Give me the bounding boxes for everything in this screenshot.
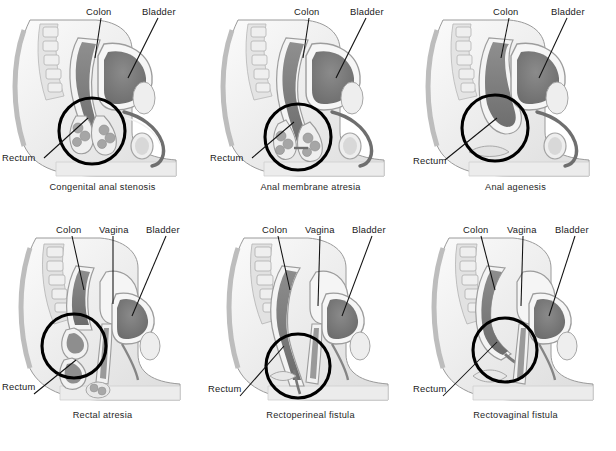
panel-anal-agenesis: Colon Bladder Rectum Anal agenesis (413, 0, 616, 225)
panel-rectal-atresia: Colon Vagina Bladder Rectum Rectal atres… (0, 218, 205, 443)
label-bladder: Bladder (146, 224, 180, 235)
panel-anal-membrane-atresia: Colon Bladder Rectum Anal membrane atres… (208, 0, 413, 225)
panel-rectoperineal-fistula: Colon Vagina Bladder Rectum Rectoperinea… (208, 218, 413, 443)
scrotum-testis (131, 133, 153, 159)
label-rectum: Rectum (2, 152, 36, 163)
label-bladder: Bladder (350, 6, 384, 17)
panel-caption: Congenital anal stenosis (0, 182, 205, 192)
panel-caption: Anal membrane atresia (208, 182, 413, 192)
pubic-symphysis (557, 332, 577, 360)
label-rectum: Rectum (413, 155, 447, 166)
panel-caption: Rectal atresia (0, 410, 205, 420)
illustration-male-pelvis (208, 0, 413, 192)
label-colon: Colon (56, 224, 82, 235)
pubic-symphysis (350, 332, 370, 360)
label-vagina: Vagina (99, 224, 129, 235)
label-colon: Colon (86, 6, 112, 17)
label-colon: Colon (294, 6, 320, 17)
illustration-female-pelvis (208, 218, 413, 410)
label-colon: Colon (463, 224, 489, 235)
scrotum-testis (339, 133, 361, 159)
label-colon: Colon (493, 6, 519, 17)
pubic-symphysis (133, 82, 155, 114)
illustration-male-pelvis (0, 0, 205, 192)
label-rectum: Rectum (413, 383, 447, 394)
anorectal-malformation-figure: Colon Bladder Rectum Congenital anal ste… (0, 0, 616, 451)
label-bladder: Bladder (551, 6, 585, 17)
label-rectum: Rectum (208, 383, 242, 394)
pubic-symphysis (546, 82, 568, 114)
panel-caption: Rectovaginal fistula (413, 410, 616, 420)
label-rectum: Rectum (2, 381, 36, 392)
pubic-symphysis (140, 332, 160, 360)
label-rectum: Rectum (210, 152, 244, 163)
label-colon: Colon (262, 224, 288, 235)
label-bladder: Bladder (352, 224, 386, 235)
panel-congenital-anal-stenosis: Colon Bladder Rectum Congenital anal ste… (0, 0, 205, 225)
panel-caption: Anal agenesis (413, 182, 616, 192)
panel-caption: Rectoperineal fistula (208, 410, 413, 420)
label-vagina: Vagina (305, 224, 335, 235)
perineum-labia (86, 382, 110, 398)
panel-rectovaginal-fistula: Colon Vagina Bladder Rectum Rectovaginal… (413, 218, 616, 443)
label-vagina: Vagina (507, 224, 537, 235)
label-bladder: Bladder (555, 224, 589, 235)
label-bladder: Bladder (142, 6, 176, 17)
pubic-symphysis (341, 82, 363, 114)
scrotum-testis (544, 133, 566, 159)
illustration-female-pelvis (413, 218, 616, 410)
